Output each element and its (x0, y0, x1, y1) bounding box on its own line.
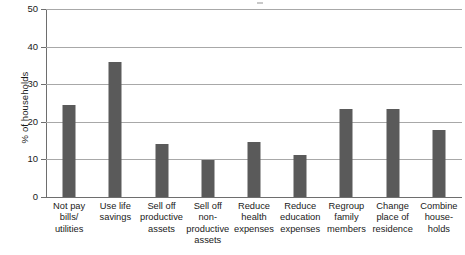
bar (109, 62, 122, 197)
bar (247, 142, 260, 197)
bar (294, 155, 307, 197)
y-tick-label-0: 0 (0, 192, 38, 201)
bar (155, 144, 168, 197)
y-tick-label-20: 20 (0, 117, 38, 126)
x-axis-category-label: Sell offnon-productiveassets (185, 201, 231, 247)
x-axis-category-label: Not paybills/utilities (46, 201, 92, 235)
y-tick-label-30: 30 (0, 79, 38, 88)
bar (432, 130, 445, 197)
x-axis-category-label: Combinehouse-holds (416, 201, 462, 235)
gridline-0 (46, 197, 462, 198)
bar-slot (185, 9, 231, 197)
bar-slot (46, 9, 92, 197)
bar (340, 109, 353, 197)
y-tick-label-40: 40 (0, 42, 38, 51)
bars-container (46, 9, 462, 197)
bar-slot (370, 9, 416, 197)
bar-chart: % of households 01020304050 Not paybills… (0, 0, 465, 255)
bar (63, 105, 76, 197)
bar-slot (416, 9, 462, 197)
y-tick-label-10: 10 (0, 154, 38, 163)
bar (201, 160, 214, 197)
bar-slot (323, 9, 369, 197)
x-axis-category-label: Use lifesavings (92, 201, 138, 224)
bar-slot (92, 9, 138, 197)
bar-slot (138, 9, 184, 197)
x-axis-category-label: Reducehealthexpenses (231, 201, 277, 235)
bar-slot (277, 9, 323, 197)
x-axis-category-label: Sell offproductiveassets (138, 201, 184, 235)
x-axis-categories: Not paybills/utilitiesUse lifesavingsSel… (46, 201, 462, 255)
x-axis-category-label: Regroupfamilymembers (323, 201, 369, 235)
x-axis-category-label: Reduceeducationexpenses (277, 201, 323, 235)
bar (386, 109, 399, 197)
bar-slot (231, 9, 277, 197)
y-tick-label-50: 50 (0, 4, 38, 13)
x-axis-category-label: Changeplace ofresidence (370, 201, 416, 235)
scan-artifact-speck (257, 2, 263, 4)
